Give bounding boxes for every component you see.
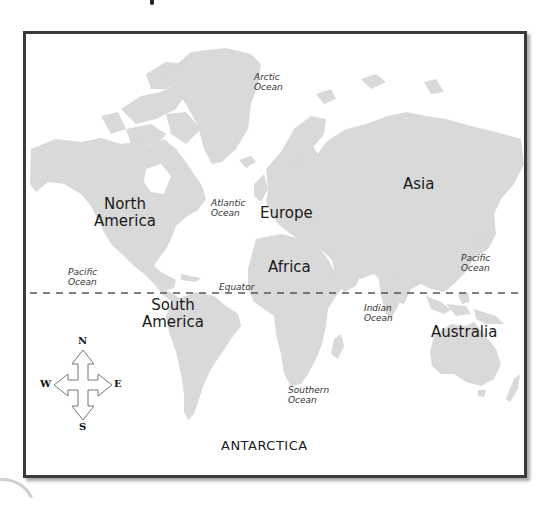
compass-south-label: S	[79, 421, 86, 432]
ocean-southern: Southern Ocean	[288, 385, 329, 406]
compass-west-label: W	[40, 378, 51, 389]
map-frame: N S E W North America South America Euro…	[23, 31, 527, 478]
ocean-label-line1: Arctic	[254, 72, 283, 82]
ocean-label-line2: Ocean	[211, 208, 245, 218]
ocean-atlantic: Atlantic Ocean	[211, 198, 245, 219]
ocean-label-line1: Pacific	[461, 253, 490, 263]
compass-north-label: N	[78, 335, 87, 346]
ocean-label-line2: Ocean	[254, 82, 283, 92]
continent-antarctica: ANTARCTICA	[221, 439, 308, 454]
ocean-label-line2: Ocean	[461, 263, 490, 273]
ocean-label-line1: Southern	[288, 385, 329, 395]
ocean-label-line1: Atlantic	[211, 198, 245, 208]
continent-asia: Asia	[403, 176, 434, 193]
ocean-label-line2: Ocean	[68, 277, 97, 287]
continent-africa: Africa	[268, 259, 311, 276]
continent-label-line2: America	[94, 213, 156, 230]
continent-label-line2: America	[142, 314, 204, 331]
ocean-pacific-west: Pacific Ocean	[461, 253, 490, 274]
equator-label: Equator	[219, 282, 254, 292]
page-mark	[150, 0, 154, 5]
continent-north-america: North America	[94, 196, 156, 231]
ocean-pacific-east: Pacific Ocean	[68, 267, 97, 288]
continent-australia: Australia	[431, 324, 497, 341]
ocean-label-line1: Indian	[364, 303, 393, 313]
continent-south-america: South America	[142, 297, 204, 332]
compass-east-label: E	[114, 378, 122, 389]
ocean-label-line1: Pacific	[68, 267, 97, 277]
continent-label-line1: North	[94, 196, 156, 213]
world-map-land	[26, 34, 524, 475]
ocean-label-line2: Ocean	[288, 395, 329, 405]
ocean-indian: Indian Ocean	[364, 303, 393, 324]
continent-label-line1: South	[142, 297, 204, 314]
ocean-label-line2: Ocean	[364, 313, 393, 323]
continent-europe: Europe	[260, 205, 313, 222]
ocean-arctic: Arctic Ocean	[254, 72, 283, 93]
compass-rose	[54, 350, 112, 420]
